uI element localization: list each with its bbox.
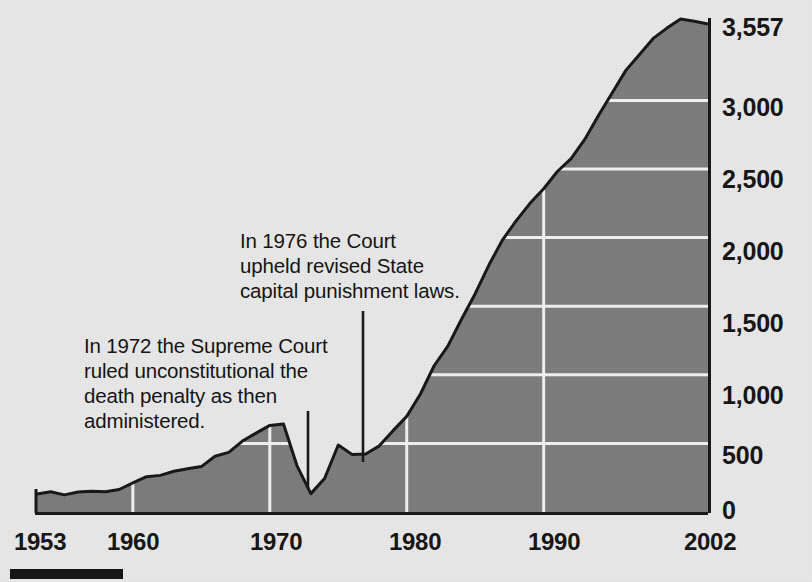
y-axis-tick-label: 3,557: [722, 13, 784, 42]
x-axis-tick-label: 1990: [528, 528, 580, 556]
annotation-1972: In 1972 the Supreme Court ruled unconsti…: [84, 333, 328, 433]
y-axis-tick-label: 1,000: [722, 381, 784, 410]
source-rule-bar: [10, 569, 123, 579]
y-axis-tick-label: 3,000: [722, 93, 784, 122]
y-axis-tick-label: 2,000: [722, 237, 784, 266]
x-axis-tick-label: 1970: [250, 528, 302, 556]
annotation-1976: In 1976 the Court upheld revised State c…: [240, 228, 460, 303]
y-axis-tick-label: 0: [722, 496, 736, 525]
y-axis-tick-label: 1,500: [722, 309, 784, 338]
x-axis-tick-label: 2002: [684, 528, 736, 556]
death-penalty-area-chart: 3,5573,0002,5002,0001,5001,0005000 19531…: [0, 0, 812, 582]
x-axis-tick-label: 1960: [107, 528, 159, 556]
x-axis-tick-label: 1980: [389, 528, 441, 556]
x-axis-tick-label: 1953: [14, 528, 66, 556]
y-axis-tick-label: 2,500: [722, 165, 784, 194]
y-axis-tick-label: 500: [722, 441, 763, 470]
